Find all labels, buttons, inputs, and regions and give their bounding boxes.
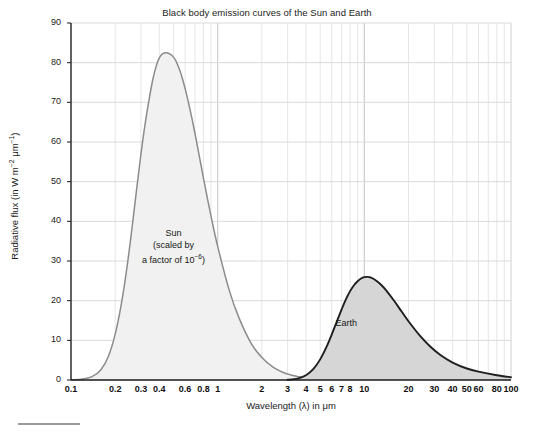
y-tick-label: 10: [27, 334, 61, 344]
x-tick-label: 0.6: [179, 384, 192, 394]
y-tick-label: 60: [27, 136, 61, 146]
x-tick-label: 0.8: [197, 384, 210, 394]
y-tick-label: 90: [27, 17, 61, 27]
y-tick-label: 20: [27, 295, 61, 305]
x-tick-label: 30: [429, 384, 439, 394]
x-tick-label: 50: [462, 384, 472, 394]
x-tick-label: 0.1: [65, 384, 78, 394]
x-tick-label: 1: [215, 384, 220, 394]
x-tick-label: 5: [318, 384, 323, 394]
y-tick-label: 40: [27, 215, 61, 225]
earth-curve-label: Earth: [316, 318, 376, 330]
x-tick-label: 40: [448, 384, 458, 394]
x-tick-label: 6: [329, 384, 334, 394]
x-tick-label: 100: [503, 384, 518, 394]
x-tick-label: 7: [339, 384, 344, 394]
y-tick-label: 30: [27, 255, 61, 265]
x-tick-label: 0.2: [109, 384, 122, 394]
sun-curve-label: Sun(scaled bya factor of 10−6): [114, 228, 234, 267]
y-tick-label: 70: [27, 96, 61, 106]
x-tick-label: 20: [403, 384, 413, 394]
x-tick-label: 0.4: [153, 384, 166, 394]
x-tick-label: 8: [348, 384, 353, 394]
x-tick-label: 4: [303, 384, 308, 394]
x-tick-label: 10: [359, 384, 369, 394]
data-curves: [71, 53, 511, 380]
x-tick-label: 2: [259, 384, 264, 394]
x-tick-label: 0.3: [135, 384, 148, 394]
progress-bar[interactable]: [18, 423, 80, 425]
y-tick-label: 0: [27, 374, 61, 384]
x-tick-label: 80: [492, 384, 502, 394]
y-tick-label: 50: [27, 176, 61, 186]
y-tick-label: 80: [27, 57, 61, 67]
plot-area: [0, 0, 534, 433]
chart-figure: Black body emission curves of the Sun an…: [0, 0, 534, 433]
x-tick-label: 3: [285, 384, 290, 394]
x-tick-label: 60: [473, 384, 483, 394]
